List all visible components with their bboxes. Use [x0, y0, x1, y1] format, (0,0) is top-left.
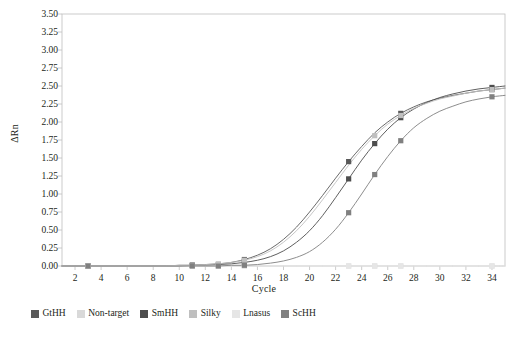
legend-item-non-target[interactable]: Non-target — [77, 308, 129, 319]
legend-swatch-icon — [77, 310, 85, 318]
legend-label: SmHH — [152, 308, 178, 319]
legend-item-lnasus[interactable]: Lnasus — [232, 308, 270, 319]
legend-item-smhh[interactable]: SmHH — [140, 308, 178, 319]
amplification-plot-figure: ΔRn 0.000.250.500.751.001.251.501.752.00… — [0, 0, 528, 344]
legend-item-gthh[interactable]: GtHH — [31, 308, 66, 319]
x-axis-title: Cycle — [0, 283, 528, 294]
legend-swatch-icon — [281, 310, 289, 318]
legend-swatch-icon — [189, 310, 197, 318]
legend-swatch-icon — [232, 310, 240, 318]
legend-label: Lnasus — [243, 308, 270, 319]
chart-legend: GtHHNon-targetSmHHSilkyLnasusScHH — [0, 308, 528, 319]
legend-label: GtHH — [43, 308, 66, 319]
legend-item-silky[interactable]: Silky — [189, 308, 221, 319]
legend-label: Silky — [201, 308, 221, 319]
legend-swatch-icon — [31, 310, 39, 318]
legend-label: Non-target — [88, 308, 129, 319]
legend-label: ScHH — [293, 308, 316, 319]
legend-item-schh[interactable]: ScHH — [281, 308, 316, 319]
legend-swatch-icon — [140, 310, 148, 318]
